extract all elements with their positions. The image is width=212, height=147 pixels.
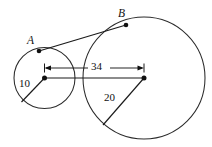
dimension-arrowhead-right	[138, 66, 145, 71]
center-distance-label: 34	[89, 61, 104, 72]
figure-canvas	[0, 0, 212, 147]
point-a-dot	[37, 49, 42, 54]
geometry-figure: A B 34 10 20	[0, 0, 212, 147]
large-circle-center-dot	[142, 76, 147, 81]
small-circle-center-dot	[42, 76, 47, 81]
tangent-segment-ab	[39, 25, 126, 51]
large-circle-radius-label: 20	[104, 92, 115, 103]
dimension-arrowhead-left	[45, 66, 52, 71]
point-b-dot	[124, 23, 129, 28]
point-b-label: B	[118, 8, 125, 20]
point-a-label: A	[27, 35, 34, 47]
small-circle-radius-label: 10	[19, 78, 30, 89]
